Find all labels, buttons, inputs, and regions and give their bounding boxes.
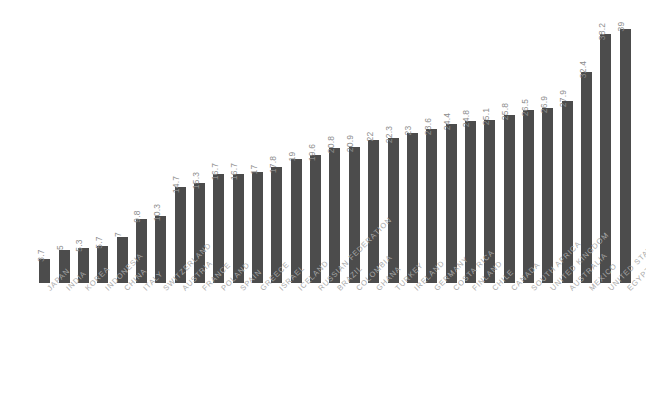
bar [600,34,611,283]
bar [407,133,418,283]
bar-slot: 25.1 [480,29,499,283]
bar-slot: 20.8 [325,29,344,283]
bar [504,115,515,283]
bar-slot: 5.7 [93,29,112,283]
bar-chart: 3.755.35.779.810.314.715.316.716.71717.8… [0,0,646,398]
bar-slot: 25.8 [500,29,519,283]
bar [523,110,534,283]
bar-slot: 23 [403,29,422,283]
bar-slot: 17 [248,29,267,283]
bar-slot: 22.3 [383,29,402,283]
bar-slot: 9.8 [132,29,151,283]
bar-slot: 5 [54,29,73,283]
bar-slot: 19 [287,29,306,283]
bar-slot: 26.9 [538,29,557,283]
bar-slot: 17.8 [267,29,286,283]
bar-slot: 39 [616,29,635,283]
plot-area: 3.755.35.779.810.314.715.316.716.71717.8… [35,29,635,283]
bar-slot: 24.4 [441,29,460,283]
bar-slot: 16.7 [229,29,248,283]
bar-slot: 16.7 [209,29,228,283]
bar [426,129,437,283]
bar [252,172,263,283]
bar-slot: 19.6 [306,29,325,283]
bar-slot: 23.6 [422,29,441,283]
bar [542,108,553,283]
bar-slot: 3.7 [35,29,54,283]
bar [446,124,457,283]
bar-slot: 24.8 [461,29,480,283]
bar-slot: 26.5 [519,29,538,283]
bar-slot: 7 [112,29,131,283]
bar-slot: 14.7 [170,29,189,283]
bar [620,29,631,283]
bar-slot: 10.3 [151,29,170,283]
category-axis-labels: JAPANINDIAKOREAINDONESIACHINAITALYSWITZE… [35,287,635,392]
bar [39,259,50,283]
bar-slot: 5.3 [74,29,93,283]
